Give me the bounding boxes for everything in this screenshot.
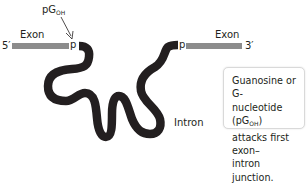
self-splicing-diagram: Exon 5′ p Exon 3′ p pGOH Intron Guanosin…	[0, 0, 308, 185]
right-junction-p: p	[179, 40, 185, 50]
intron-label: Intron	[174, 118, 204, 128]
left-junction-p: p	[70, 40, 76, 50]
left-exon-label: Exon	[20, 30, 44, 40]
intron-strand	[48, 45, 178, 137]
pgoh-label: pGOH	[42, 5, 65, 18]
right-exon-bar	[186, 43, 242, 49]
callout-line-2-close: )	[259, 115, 263, 126]
callout-line-1: Guanosine or G-	[232, 74, 299, 101]
five-prime-label: 5′	[2, 41, 11, 51]
pgoh-main: pG	[42, 4, 56, 15]
callout-line-4: intron junction.	[232, 157, 299, 184]
pgoh-subscript: OH	[56, 9, 65, 16]
right-exon-label: Exon	[215, 30, 239, 40]
callout-box: Guanosine or G- nucleotide (pGOH) attack…	[223, 67, 305, 129]
attack-arrow-head	[66, 31, 73, 39]
three-prime-label: 3′	[245, 41, 254, 51]
callout-line-3: attacks first exon–	[232, 131, 299, 158]
left-exon-bar	[12, 43, 69, 49]
callout-subscript: OH	[249, 120, 258, 127]
callout-line-2: nucleotide (pGOH)	[232, 101, 299, 131]
